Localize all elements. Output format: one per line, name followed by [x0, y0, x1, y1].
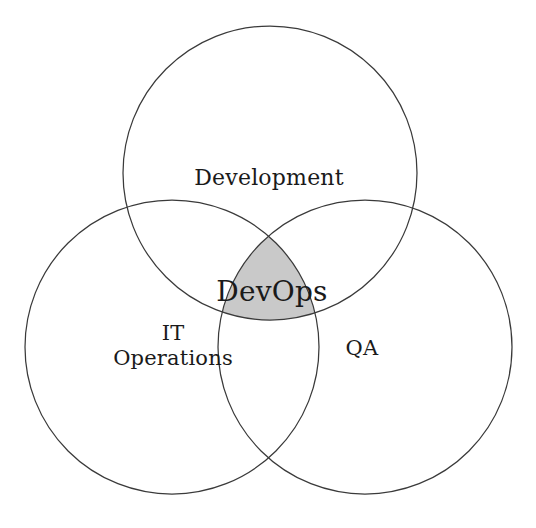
label-devops: DevOps: [216, 275, 327, 308]
label-it-operations-line-1: IT: [113, 321, 233, 346]
venn-diagram: Development DevOps IT Operations QA: [0, 0, 536, 528]
label-development: Development: [194, 165, 344, 191]
label-it-operations-line-2: Operations: [113, 346, 233, 371]
venn-diagram-canvas: [0, 0, 536, 528]
label-it-operations: IT Operations: [113, 321, 233, 371]
label-qa: QA: [346, 336, 379, 361]
